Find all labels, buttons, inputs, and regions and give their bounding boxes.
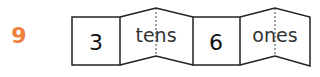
- ones-digit: 6: [209, 30, 223, 55]
- tens-digit: 3: [89, 30, 103, 55]
- place-value-card: 3 tens 6 ones: [0, 0, 320, 77]
- ones-label: ones: [252, 24, 297, 46]
- tens-label: tens: [135, 24, 176, 46]
- tens-flap-bottom: [120, 56, 193, 65]
